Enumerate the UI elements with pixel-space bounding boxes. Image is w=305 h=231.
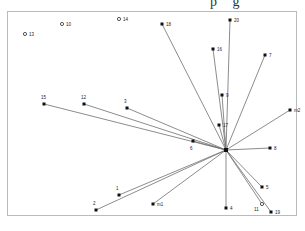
node-marker-icon xyxy=(152,203,155,206)
node-marker-icon xyxy=(289,109,292,112)
edge-hub-8 xyxy=(226,148,270,150)
node-label: 6 xyxy=(190,146,193,151)
edge-hub-18 xyxy=(162,24,226,150)
edge-hub-12 xyxy=(84,104,226,150)
node-2[interactable]: 2 xyxy=(93,201,98,212)
edge-hub-16 xyxy=(213,49,226,150)
nodes: 13101418201679m2151231768512m141119 xyxy=(23,17,300,215)
node-label: 7 xyxy=(269,53,272,58)
node-label: 1 xyxy=(116,186,119,191)
edge-hub-15 xyxy=(44,104,226,150)
node-marker-icon xyxy=(225,207,228,210)
node-10[interactable]: 10 xyxy=(60,22,71,27)
edge-hub-m1 xyxy=(153,150,226,204)
hub-node[interactable] xyxy=(224,148,228,152)
node-label: 11 xyxy=(254,207,259,212)
node-label: 8 xyxy=(274,146,277,151)
node-marker-icon xyxy=(221,94,224,97)
node-label: 15 xyxy=(41,95,47,100)
node-label: 4 xyxy=(230,206,233,211)
node-1[interactable]: 1 xyxy=(116,186,121,197)
edge-hub-m2 xyxy=(226,110,290,150)
node-label: 18 xyxy=(166,22,172,27)
node-marker-icon xyxy=(161,23,164,26)
node-marker-icon xyxy=(60,22,63,25)
node-m2[interactable]: m2 xyxy=(289,108,301,113)
node-marker-icon xyxy=(260,202,263,205)
node-label: 2 xyxy=(93,201,96,206)
node-label: 14 xyxy=(123,17,129,22)
edge-hub-5 xyxy=(226,150,262,187)
edges xyxy=(44,20,290,212)
edge-hub-1 xyxy=(119,150,226,195)
node-label: 20 xyxy=(234,18,240,23)
node-15[interactable]: 15 xyxy=(41,95,47,106)
node-label: m1 xyxy=(157,202,164,207)
node-14[interactable]: 14 xyxy=(117,17,128,22)
node-marker-icon xyxy=(126,107,129,110)
node-marker-icon xyxy=(83,103,86,106)
node-marker-icon xyxy=(117,17,120,20)
node-marker-icon xyxy=(270,211,273,214)
node-3[interactable]: 3 xyxy=(124,99,129,110)
node-marker-icon xyxy=(118,194,121,197)
edge-hub-7 xyxy=(226,55,265,150)
node-13[interactable]: 13 xyxy=(23,32,34,37)
edge-hub-20 xyxy=(226,20,230,150)
node-label: 9 xyxy=(226,93,229,98)
node-12[interactable]: 12 xyxy=(81,95,87,106)
node-label: m2 xyxy=(294,108,301,113)
node-5[interactable]: 5 xyxy=(261,185,270,190)
node-11[interactable]: 11 xyxy=(254,202,264,212)
node-19[interactable]: 19 xyxy=(270,210,281,215)
node-marker-icon xyxy=(264,54,267,57)
node-marker-icon xyxy=(23,32,26,35)
node-7[interactable]: 7 xyxy=(264,53,273,58)
node-18[interactable]: 18 xyxy=(161,22,172,27)
node-label: 12 xyxy=(81,95,87,100)
edge-hub-6 xyxy=(193,141,226,150)
node-marker-icon xyxy=(218,124,221,127)
node-m1[interactable]: m1 xyxy=(152,202,164,207)
node-label: 10 xyxy=(66,22,72,27)
node-marker-icon xyxy=(192,140,195,143)
node-8[interactable]: 8 xyxy=(269,146,278,151)
node-label: 16 xyxy=(217,47,223,52)
node-marker-icon xyxy=(212,48,215,51)
node-label: 19 xyxy=(275,210,281,215)
node-marker-icon xyxy=(261,186,264,189)
node-marker-icon xyxy=(43,103,46,106)
edge-hub-19 xyxy=(226,150,271,212)
node-marker-icon xyxy=(95,209,98,212)
node-label: 5 xyxy=(266,185,269,190)
network-graph: 13101418201679m2151231768512m141119 xyxy=(0,0,305,231)
node-label: 3 xyxy=(124,99,127,104)
node-marker-icon xyxy=(229,19,232,22)
node-marker-icon xyxy=(269,147,272,150)
node-label: 17 xyxy=(223,123,229,128)
node-label: 13 xyxy=(29,32,35,37)
